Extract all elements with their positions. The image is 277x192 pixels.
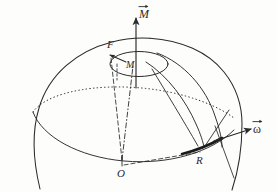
horizon-ellipse-front [33, 112, 234, 162]
diagram-drawing [0, 0, 277, 192]
figure-canvas: M F M ω R O [0, 0, 277, 192]
polar-axis-dashdot [122, 66, 133, 160]
label-m-vector-text: M [139, 7, 149, 21]
label-focus-point: F [107, 39, 114, 50]
radius-dashed-o-to-r [124, 152, 200, 165]
chord-pole-to-r-upper [152, 69, 198, 146]
omega-axis-line [215, 126, 234, 178]
label-omega-text: ω [253, 122, 261, 136]
label-magnetic-moment-vector: M [139, 8, 149, 20]
label-angular-velocity-vector: ω [253, 123, 261, 135]
sphere-outline-right [150, 38, 242, 190]
label-origin-point: O [117, 168, 125, 179]
label-pole-point: M [126, 60, 134, 70]
label-radius-point: R [196, 155, 203, 166]
